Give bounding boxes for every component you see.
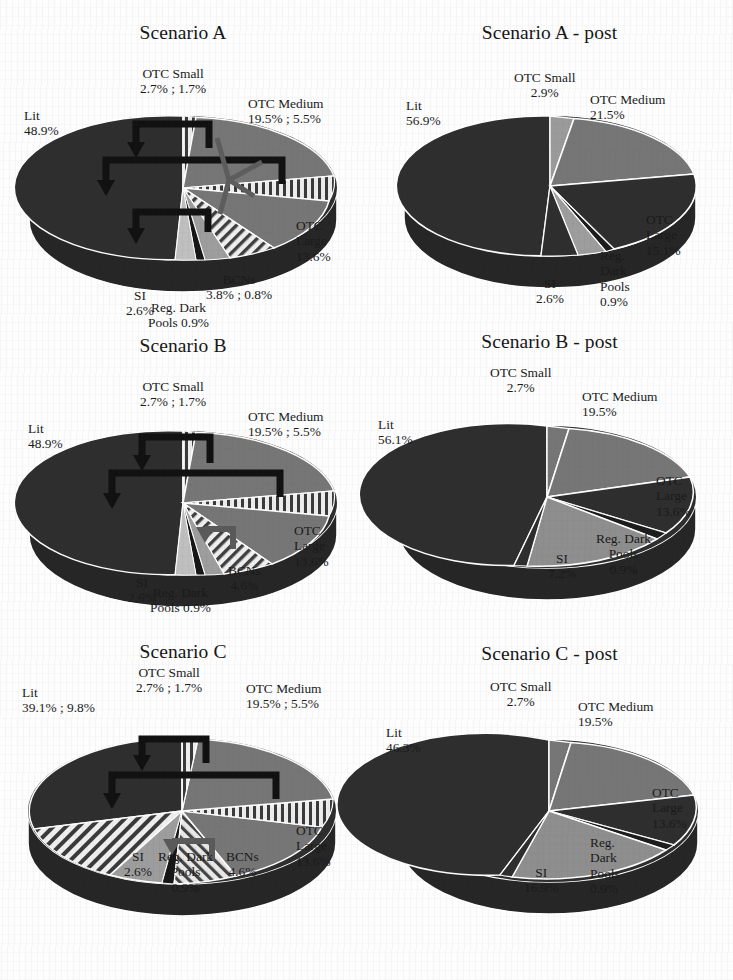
chart-panel-scenario-b: Scenario B (0, 327, 366, 637)
chart-panel-scenario-a: Scenario A (0, 0, 366, 327)
chart-title-scenario-a: Scenario A (0, 22, 366, 44)
label-si-c-post: SI16.9% (524, 865, 559, 896)
chart-panel-scenario-b-post: Scenario B - post OTC Small2.7% OTC Medi… (366, 327, 733, 637)
label-otc-medium-c: OTC Medium19.5% ; 5.5% (246, 681, 322, 712)
label-lit-c: Lit39.1% ; 9.8% (22, 685, 95, 716)
label-si-b: SI2.6% (128, 575, 156, 606)
label-otc-medium-b: OTC Medium19.5% ; 5.5% (248, 409, 324, 440)
label-reg-dark-pools-c: Reg. DarkPools0.9% (158, 849, 213, 895)
label-otc-small-b-post: OTC Small2.7% (490, 365, 551, 396)
label-bcns-c: BCNs4.6% (226, 849, 259, 880)
label-reg-dark-pools-b: Reg. DarkPools 0.9% (150, 585, 211, 616)
label-reg-dark-pools-b-post: Reg. DarkPools0.9% (596, 531, 651, 577)
label-si-a: SI2.6% (126, 288, 154, 319)
chart-panel-scenario-c: Scenario C (0, 637, 366, 980)
label-otc-large-c-post: OTCLarge13.6% (652, 785, 687, 831)
chart-title-scenario-c: Scenario C (0, 641, 366, 663)
label-si-b-post: SI7.2% (548, 551, 576, 582)
label-reg-dark-pools-a: Reg. DarkPools 0.9% (148, 300, 209, 331)
label-lit-a: Lit48.9% (24, 108, 59, 139)
label-otc-small-b: OTC Small2.7% ; 1.7% (140, 379, 206, 410)
chart-panel-scenario-c-post: Scenario C - post OTC Small2.7% OTC Medi… (366, 637, 733, 980)
label-reg-dark-pools-a-post: Reg.DarkPools0.9% (600, 248, 630, 309)
label-otc-large-a: OTCLarge13.6% (296, 218, 331, 264)
chart-title-scenario-b: Scenario B (0, 335, 366, 357)
label-otc-medium-a: OTC Medium19.5% ; 5.5% (248, 96, 324, 127)
label-si-c: SI2.6% (124, 849, 152, 880)
chart-title-scenario-a-post: Scenario A - post (366, 22, 733, 44)
label-lit-b-post: Lit56.1% (378, 417, 413, 448)
label-otc-medium-a-post: OTC Medium21.5% (590, 92, 666, 123)
label-otc-large-b-post: OTCLarge13.6% (656, 473, 691, 519)
label-otc-small-c: OTC Small2.7% ; 1.7% (136, 665, 202, 696)
label-lit-a-post: Lit56.9% (406, 98, 441, 129)
pie-scenario-b-post (394, 405, 700, 595)
label-otc-large-b: OTCLarge13.6% (294, 523, 329, 569)
chart-title-scenario-b-post: Scenario B - post (366, 331, 733, 353)
label-bcns-b: BCNs4.6% (228, 563, 261, 594)
label-si-a-post: SI2.6% (536, 276, 564, 307)
label-otc-large-c: OTCLarge13.6% (296, 823, 331, 869)
label-otc-large-a-post: OTCLarge15.1% (646, 212, 681, 258)
label-lit-b: Lit48.9% (28, 421, 63, 452)
label-otc-small-a: OTC Small2.7% ; 1.7% (140, 66, 206, 97)
label-otc-medium-c-post: OTC Medium19.5% (578, 699, 654, 730)
label-otc-small-a-post: OTC Small2.9% (514, 70, 575, 101)
label-otc-medium-b-post: OTC Medium19.5% (582, 389, 658, 420)
label-otc-small-c-post: OTC Small2.7% (490, 679, 551, 710)
scenario-chart-grid: Scenario A (0, 0, 733, 980)
label-reg-dark-pools-c-post: Reg.DarkPools0.9% (590, 835, 620, 896)
label-bcns-a: BCNs3.8% ; 0.8% (206, 272, 272, 303)
chart-title-scenario-c-post: Scenario C - post (366, 643, 733, 665)
label-lit-c-post: Lit46.3% (386, 725, 421, 756)
chart-panel-scenario-a-post: Scenario A - post OTC Small2.9% OTC Medi… (366, 0, 733, 327)
